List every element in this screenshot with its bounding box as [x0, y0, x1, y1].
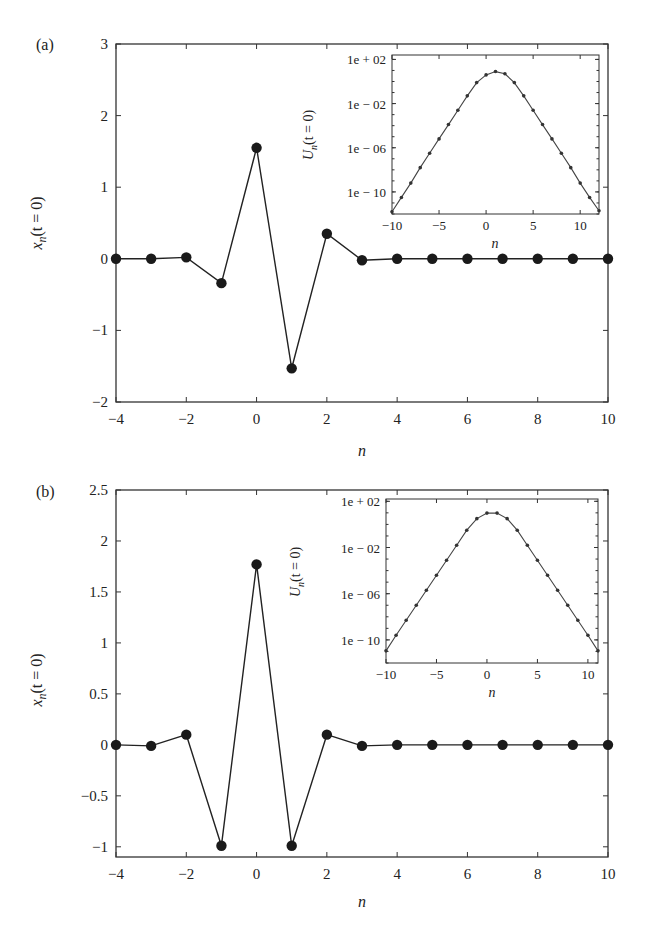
x-tick-label: −4 [108, 411, 124, 427]
data-point-marker [597, 209, 601, 213]
data-point-marker [462, 254, 472, 264]
y-tick-label: 3 [101, 36, 109, 52]
data-point-marker [568, 254, 578, 264]
data-point-marker [409, 181, 413, 185]
data-point-marker [586, 633, 590, 637]
data-point-marker [251, 143, 261, 153]
data-point-marker [392, 254, 402, 264]
panel-a-inset: −10−505101e + 021e − 021e − 061e − 10 n … [301, 52, 601, 251]
y-tick-label: −0.5 [81, 788, 108, 804]
data-point-marker [497, 254, 507, 264]
data-point-marker [596, 649, 600, 653]
data-point-marker [541, 123, 545, 127]
y-tick-label: −1 [92, 839, 108, 855]
data-point-marker [533, 254, 543, 264]
data-point-marker [533, 740, 543, 750]
data-point-marker [505, 517, 509, 521]
data-point-marker [560, 151, 564, 155]
inset-a-background [392, 55, 599, 214]
y-tick-label: −1 [92, 322, 108, 338]
data-point-marker [322, 229, 332, 239]
data-point-marker [435, 573, 439, 577]
data-point-marker [588, 196, 592, 200]
data-point-marker [400, 196, 404, 200]
data-point-marker [503, 72, 507, 76]
y-tick-label: 2.5 [89, 482, 108, 498]
y-tick-label: 1 [101, 635, 109, 651]
x-tick-label: 10 [601, 411, 616, 427]
data-point-marker [384, 649, 388, 653]
y-tick-label: 1.5 [89, 584, 108, 600]
ylabel-rest: (t = 0) [28, 196, 46, 236]
data-point-marker [515, 528, 519, 532]
panel-b-ylabel: xn(t = 0) [28, 653, 49, 707]
data-point-marker [455, 543, 459, 547]
data-point-marker [322, 729, 332, 739]
data-point-marker [445, 558, 449, 562]
data-point-marker [418, 166, 422, 170]
figure: (a) −4−20246810−2−10123 n xn(t = 0) −10−… [0, 0, 651, 941]
y-tick-label: 1 [101, 179, 109, 195]
panel-a-ylabel: xn(t = 0) [28, 196, 49, 250]
data-point-marker [526, 543, 530, 547]
data-point-marker [494, 70, 498, 74]
panel-a-xlabel: n [358, 442, 366, 459]
ylabel-main: x [28, 243, 45, 251]
data-point-marker [475, 517, 479, 521]
data-point-marker [485, 511, 489, 515]
panel-label-b: (b) [36, 483, 55, 501]
data-point-marker [536, 558, 540, 562]
y-tick-label: 1e − 06 [341, 587, 381, 602]
panel-b-xlabel: n [358, 893, 366, 910]
x-tick-label: 10 [601, 866, 616, 882]
data-point-marker [576, 618, 580, 622]
y-tick-label: 2 [101, 108, 109, 124]
x-tick-label: −2 [178, 411, 194, 427]
data-point-marker [456, 108, 460, 112]
inset-b-xlabel: n [489, 685, 496, 700]
x-tick-label: 2 [323, 411, 331, 427]
x-tick-label: 8 [534, 411, 542, 427]
x-tick-label: 4 [393, 866, 401, 882]
data-point-marker [556, 588, 560, 592]
data-point-marker [497, 740, 507, 750]
y-tick-label: 2 [101, 533, 109, 549]
data-point-marker [111, 740, 121, 750]
x-tick-label: −4 [108, 866, 124, 882]
data-point-marker [522, 94, 526, 98]
x-tick-label: −5 [430, 667, 444, 682]
data-point-marker [428, 151, 432, 155]
data-point-marker [146, 254, 156, 264]
inset-b-background [386, 499, 598, 663]
y-tick-label: 1e − 10 [347, 185, 386, 200]
data-point-marker [568, 740, 578, 750]
data-point-marker [462, 740, 472, 750]
x-tick-label: 10 [574, 218, 587, 233]
data-point-marker [357, 741, 367, 751]
data-point-marker [394, 633, 398, 637]
x-tick-label: 10 [581, 667, 594, 682]
panel-a: (a) −4−20246810−2−10123 n xn(t = 0) −10−… [28, 36, 616, 459]
x-tick-label: 2 [323, 866, 331, 882]
x-tick-label: 4 [393, 411, 401, 427]
y-tick-label: 1e + 02 [347, 52, 386, 67]
y-tick-label: 1e − 10 [341, 633, 380, 648]
data-point-marker [357, 255, 367, 265]
data-point-marker [181, 729, 191, 739]
data-point-marker [414, 603, 418, 607]
data-point-marker [390, 210, 394, 214]
data-point-marker [404, 618, 408, 622]
x-tick-label: 5 [530, 218, 537, 233]
data-point-marker [465, 528, 469, 532]
y-tick-label: 0 [101, 251, 109, 267]
data-point-marker [569, 166, 573, 170]
x-tick-label: −10 [376, 667, 396, 682]
y-tick-label: 1e − 06 [347, 141, 387, 156]
data-point-marker [513, 81, 517, 85]
ylabel-main: x [28, 700, 45, 708]
data-point-marker [392, 740, 402, 750]
data-point-marker [495, 511, 499, 515]
data-point-marker [475, 81, 479, 85]
x-tick-label: 8 [534, 866, 542, 882]
inset-ylabel-rest: (t = 0) [301, 110, 317, 145]
